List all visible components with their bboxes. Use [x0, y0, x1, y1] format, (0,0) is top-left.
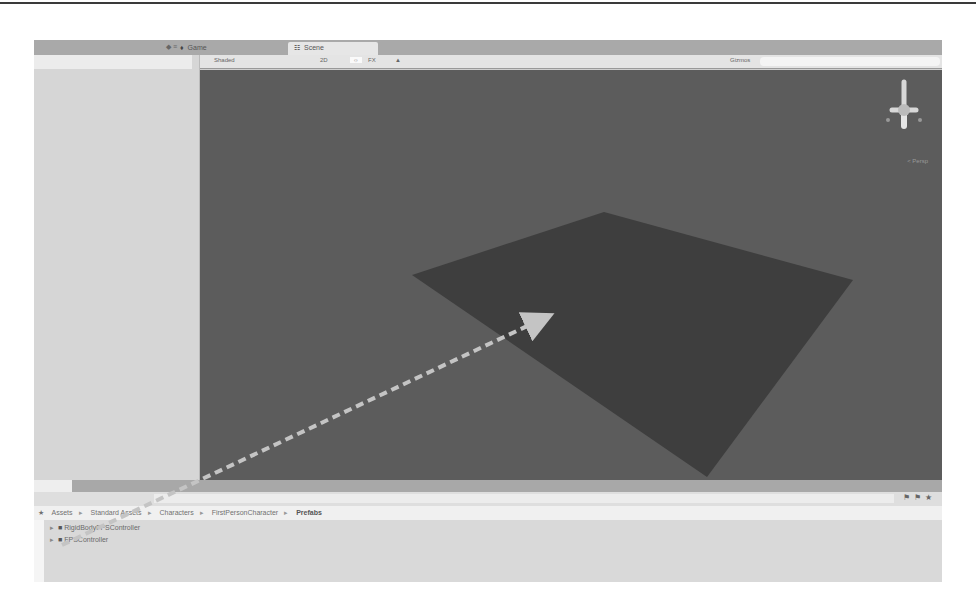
projection-label[interactable]: < Persp — [907, 158, 928, 164]
project-toolbar: ⚑⚑★ — [34, 492, 942, 506]
breadcrumb-item-characters[interactable]: Characters — [159, 509, 193, 516]
list-item[interactable]: ▸■FPSController — [50, 536, 108, 544]
scene-viewport[interactable]: < Persp — [200, 70, 942, 480]
sun-icon[interactable]: ☼ — [350, 57, 362, 63]
tab-game[interactable]: ♦Game — [174, 42, 213, 55]
list-item-label: FPSController — [64, 536, 108, 543]
orientation-gizmo-icon[interactable] — [874, 74, 934, 154]
breadcrumb-item-firstpersoncharacter[interactable]: FirstPersonCharacter — [212, 509, 279, 516]
tab-game-label: Game — [188, 44, 207, 51]
speaker-icon[interactable]: ▲ — [395, 57, 401, 63]
breadcrumb-item-prefabs[interactable]: Prefabs — [296, 509, 322, 516]
scene-icon: ☷ — [294, 44, 300, 52]
project-filter-icons[interactable]: ⚑⚑★ — [903, 493, 936, 502]
toggle-2d-button[interactable]: 2D — [320, 57, 328, 63]
project-file-list: ▸■RigidBodyFPSController ▸■FPSController — [34, 520, 942, 582]
scene-search-input[interactable] — [760, 57, 940, 66]
list-item-label: RigidBodyFPSController — [64, 524, 140, 531]
hierarchy-panel — [34, 55, 200, 480]
prefab-icon: ■ — [58, 536, 62, 543]
breadcrumb-item-standard-assets[interactable]: Standard Assets — [91, 509, 142, 516]
breadcrumb-separator: ▸ — [79, 509, 83, 516]
expand-arrow-icon[interactable]: ▸ — [50, 536, 54, 543]
scene-toolbar: Shaded 2D ☼ FX ▲ Gizmos — [200, 55, 942, 69]
tab-scene[interactable]: ☷Scene — [288, 42, 378, 55]
shading-mode-dropdown[interactable]: Shaded — [214, 57, 235, 63]
breadcrumb-separator: ▸ — [284, 509, 288, 516]
game-controller-icon: ♦ — [180, 44, 184, 51]
page-rule — [0, 2, 976, 4]
project-search-input[interactable] — [154, 494, 894, 503]
breadcrumb: ★ Assets▸ Standard Assets▸ Characters▸ F… — [34, 506, 942, 520]
favorite-icon[interactable]: ★ — [925, 493, 936, 502]
breadcrumb-separator: ▸ — [200, 509, 204, 516]
gizmos-dropdown[interactable]: Gizmos — [730, 57, 750, 63]
breadcrumb-star-icon: ★ — [38, 509, 44, 516]
breadcrumb-item-assets[interactable]: Assets — [52, 509, 73, 516]
ground-plane[interactable] — [200, 70, 942, 480]
filter-by-type-icon[interactable]: ⚑ — [903, 493, 914, 502]
breadcrumb-separator: ▸ — [148, 509, 152, 516]
project-tabbar — [34, 480, 942, 492]
effects-button[interactable]: FX — [368, 57, 376, 63]
expand-arrow-icon[interactable]: ▸ — [50, 524, 54, 531]
tab-strip: ◆ ≡ ♦Game ☷Scene — [34, 40, 942, 55]
unity-editor-window: ◆ ≡ ♦Game ☷Scene Shaded 2D ☼ FX ▲ Gizmos — [34, 40, 942, 582]
list-item[interactable]: ▸■RigidBodyFPSController — [50, 524, 140, 532]
tab-scene-label: Scene — [304, 44, 324, 51]
prefab-icon: ■ — [58, 524, 62, 531]
filter-by-label-icon[interactable]: ⚑ — [914, 493, 925, 502]
file-list-margin — [34, 520, 44, 582]
hierarchy-search-bar[interactable] — [34, 55, 192, 69]
